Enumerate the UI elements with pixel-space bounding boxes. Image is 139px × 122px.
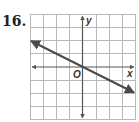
- y-axis-label: y: [85, 15, 92, 26]
- origin-label: O: [73, 69, 81, 80]
- coordinate-graph: y x O: [0, 0, 139, 122]
- x-axis-label: x: [126, 68, 133, 79]
